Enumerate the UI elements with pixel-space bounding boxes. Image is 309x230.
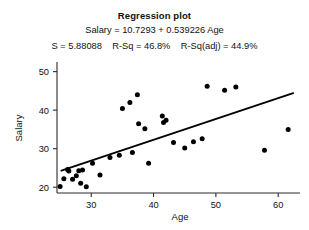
x-tick-label: 50: [211, 200, 221, 210]
data-point: [61, 176, 66, 181]
data-point: [146, 161, 151, 166]
data-point: [171, 140, 176, 145]
data-point: [160, 113, 165, 118]
regression-plot-figure: Regression plot Salary = 10.7293 + 0.539…: [0, 0, 309, 230]
regression-fit-line: [61, 93, 293, 170]
data-point: [74, 173, 79, 178]
data-point: [222, 88, 227, 93]
data-point: [78, 181, 83, 186]
data-points: [58, 84, 291, 190]
data-point: [233, 85, 238, 90]
x-tick-label: 40: [148, 200, 158, 210]
axes: [57, 62, 300, 193]
data-point: [127, 100, 132, 105]
data-point: [142, 126, 147, 131]
y-tick-label: 40: [39, 106, 49, 116]
data-point: [205, 84, 210, 89]
data-point: [97, 172, 102, 177]
data-point: [84, 184, 89, 189]
data-point: [117, 153, 122, 158]
data-point: [182, 145, 187, 150]
y-tick-label: 50: [39, 67, 49, 77]
data-point: [164, 118, 169, 123]
data-point: [136, 121, 141, 126]
data-point: [262, 148, 267, 153]
data-point: [120, 106, 125, 111]
data-point: [191, 139, 196, 144]
y-axis-ticks: 20304050: [39, 67, 57, 193]
data-point: [80, 167, 85, 172]
x-tick-label: 60: [273, 200, 283, 210]
x-axis-title: Age: [172, 211, 189, 222]
data-point: [58, 184, 63, 189]
data-point: [130, 150, 135, 155]
data-point: [135, 92, 140, 97]
data-point: [200, 136, 205, 141]
x-axis-ticks: 30405060: [86, 193, 283, 210]
data-point: [286, 127, 291, 132]
scatter-plot-canvas: 20304050 30405060 Salary Age: [0, 0, 309, 230]
y-tick-label: 30: [39, 144, 49, 154]
x-tick-label: 30: [86, 200, 96, 210]
y-tick-label: 20: [39, 183, 49, 193]
y-axis-title: Salary: [13, 114, 24, 141]
data-point: [70, 177, 75, 182]
